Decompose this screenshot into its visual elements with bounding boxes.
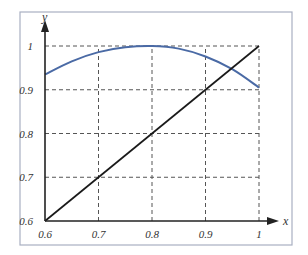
y-axis-label: y — [41, 10, 48, 24]
y-tick-label: 0.8 — [19, 128, 33, 140]
y-tick-label: 0.7 — [19, 171, 33, 183]
x-axis-label: x — [282, 214, 289, 228]
x-tick-label: 0.6 — [38, 228, 52, 240]
y-tick-label: 0.9 — [19, 84, 33, 96]
x-tick-label: 0.7 — [92, 228, 106, 240]
x-tick-label: 0.9 — [199, 228, 213, 240]
chart: x y 0.60.70.80.91 0.60.70.80.91 — [0, 0, 308, 255]
x-tick-label: 0.8 — [145, 228, 159, 240]
y-tick-label: 1 — [28, 40, 34, 52]
y-tick-label: 0.6 — [19, 215, 33, 227]
x-tick-label: 1 — [256, 228, 262, 240]
